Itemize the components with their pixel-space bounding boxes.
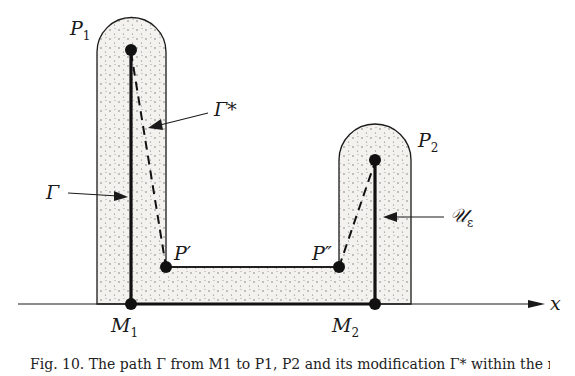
point-P-double-prime — [333, 261, 345, 273]
x-axis-arrowhead-icon — [528, 300, 545, 308]
label-u-eps: 𝒰ε — [450, 204, 473, 230]
label-x-axis: x — [550, 292, 561, 314]
gamma-star-pointer-line — [160, 113, 208, 125]
point-M1 — [125, 298, 137, 310]
label-P-double-prime: P″ — [311, 242, 332, 264]
figure-caption: Fig. 10. The path Γ from M1 to P1, P2 an… — [30, 356, 550, 376]
point-P2 — [369, 154, 381, 166]
point-P1 — [125, 44, 137, 56]
label-P-prime: P′ — [173, 242, 192, 264]
label-gamma: Γ — [45, 181, 60, 203]
label-gamma-star: Γ* — [213, 98, 237, 120]
label-P2: P2 — [417, 129, 438, 155]
neighbourhood-region — [97, 18, 411, 305]
point-P-prime — [160, 261, 172, 273]
point-M2 — [369, 298, 381, 310]
label-M2: M2 — [331, 314, 359, 340]
label-P1: P1 — [69, 17, 90, 43]
label-M1: M1 — [110, 314, 138, 340]
